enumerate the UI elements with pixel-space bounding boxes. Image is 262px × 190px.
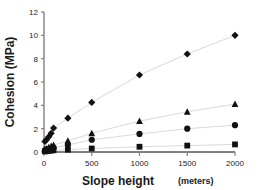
data-point-circle <box>232 122 238 128</box>
y-tick-label: 0 <box>34 148 39 157</box>
y-tick-label: 6 <box>34 78 39 87</box>
cohesion-vs-slope-height-chart: 024681012 0500100015002000 Cohesion (MPa… <box>0 0 262 190</box>
data-point-square <box>89 146 95 152</box>
y-tick-label: 4 <box>34 101 39 110</box>
data-point-square <box>51 147 57 153</box>
x-axis-ticks: 0500100015002000 <box>42 152 245 168</box>
x-axis-unit-label: (meters) <box>178 176 214 186</box>
y-tick-label: 8 <box>34 55 39 64</box>
data-point-circle <box>136 131 142 137</box>
data-point-square <box>65 147 71 153</box>
y-tick-label: 2 <box>34 125 39 134</box>
data-point-square <box>184 143 190 149</box>
x-tick-label: 0 <box>42 159 47 168</box>
y-axis-title: Cohesion (MPa) <box>3 37 17 128</box>
chart-figure: 024681012 0500100015002000 Cohesion (MPa… <box>0 0 262 190</box>
y-tick-label: 10 <box>29 31 38 40</box>
x-tick-label: 500 <box>85 159 99 168</box>
data-point-square <box>232 142 238 148</box>
x-tick-label: 1500 <box>178 159 196 168</box>
y-tick-label: 12 <box>29 8 38 17</box>
data-point-square <box>137 144 143 150</box>
data-point-circle <box>184 126 190 132</box>
x-axis-title: Slope height <box>82 174 154 188</box>
x-tick-label: 1000 <box>131 159 149 168</box>
x-tick-label: 2000 <box>226 159 244 168</box>
y-axis-ticks: 024681012 <box>29 8 44 157</box>
data-point-circle <box>89 137 95 143</box>
